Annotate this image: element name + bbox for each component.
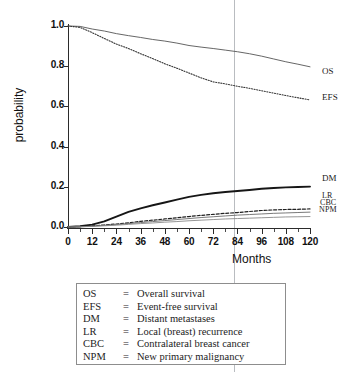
legend-description: Contralateral breast cancer [137,338,285,349]
plot-area [68,26,310,227]
y-tick-label-0.6: 0.6 [30,99,64,110]
legend-description: Event-free survival [137,301,285,312]
curve-os [68,26,310,67]
series-label-npm: NPM [319,206,337,213]
x-tick-84 [237,229,238,234]
legend-abbreviation: EFS [83,301,123,312]
x-tick-label-120: 120 [295,236,325,247]
legend-row: EFS=Event-free survival [83,301,285,314]
legend-abbreviation: LR [83,326,123,337]
x-tick-96 [262,229,263,234]
series-label-efs: EFS [322,92,338,102]
legend-row: NPM=New primary malignancy [83,351,285,364]
x-tick-108 [286,229,287,234]
survival-curves [68,26,310,227]
x-tick-90 [250,229,251,232]
x-tick-18 [104,229,105,232]
x-tick-72 [213,229,214,234]
legend-abbreviation: NPM [83,351,123,362]
legend-equals-sign: = [123,338,137,349]
x-tick-66 [201,229,202,232]
legend-row: OS=Overall survival [83,288,285,301]
legend-description: Local (breast) recurrence [137,326,285,337]
legend-equals-sign: = [123,301,137,312]
y-tick-label-0.0: 0.0 [30,220,64,231]
series-label-dm: DM [322,173,337,183]
legend-abbreviation: DM [83,313,123,324]
x-tick-102 [274,229,275,232]
y-axis-title: probability [12,60,26,170]
survival-curve-figure: 0.00.20.40.60.81.0 012243648607284961081… [0,0,360,372]
legend-box: OS=Overall survivalEFS=Event-free surviv… [76,283,286,365]
legend-equals-sign: = [123,351,137,362]
legend-equals-sign: = [123,288,137,299]
x-tick-48 [165,229,166,234]
x-tick-114 [298,229,299,232]
legend-equals-sign: = [123,313,137,324]
y-tick-label-0.2: 0.2 [30,180,64,191]
x-tick-6 [80,229,81,232]
legend-abbreviation: OS [83,288,123,299]
x-tick-30 [129,229,130,232]
y-axis-tick-labels: 0.00.20.40.60.81.0 [26,0,64,372]
curve-lr [68,209,310,227]
x-tick-0 [68,229,69,234]
x-tick-12 [92,229,93,234]
x-tick-42 [153,229,154,232]
y-tick-label-1.0: 1.0 [30,19,64,30]
legend-description: Distant metastases [137,313,285,324]
x-tick-78 [225,229,226,232]
x-tick-54 [177,229,178,232]
x-axis-title: Months [232,252,271,266]
curve-efs [68,26,310,100]
series-label-os: OS [322,66,334,76]
legend-abbreviation: CBC [83,338,123,349]
legend-row: LR=Local (breast) recurrence [83,326,285,339]
legend-equals-sign: = [123,326,137,337]
x-tick-60 [189,229,190,234]
legend-description: New primary malignancy [137,351,285,362]
x-tick-120 [310,229,311,234]
legend-row: CBC=Contralateral breast cancer [83,338,285,351]
y-tick-label-0.8: 0.8 [30,59,64,70]
legend-row: DM=Distant metastases [83,313,285,326]
x-tick-24 [116,229,117,234]
x-tick-36 [141,229,142,234]
legend-description: Overall survival [137,288,285,299]
y-tick-label-0.4: 0.4 [30,140,64,151]
